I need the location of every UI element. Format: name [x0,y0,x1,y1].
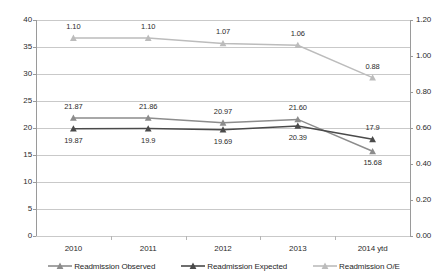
legend-label-2: Readmission O/E [339,262,400,271]
legend-item-0[interactable]: Readmission Observed [48,261,155,271]
legend-label-1: Readmission Expected [207,262,287,271]
chart-legend: Readmission ObservedReadmission Expected… [0,261,448,271]
data-label-1-2: 19.69 [198,137,248,146]
legend-label-0: Readmission Observed [74,262,155,271]
data-label-2-2: 1.07 [198,27,248,36]
data-label-0-2: 20.97 [198,107,248,116]
data-label-1-0: 19.87 [48,136,98,145]
data-label-2-3: 1.06 [273,29,323,38]
legend-marker-icon [313,261,337,271]
data-label-2-1: 1.10 [123,22,173,31]
data-label-0-0: 21.87 [48,102,98,111]
legend-item-2[interactable]: Readmission O/E [313,261,400,271]
data-label-0-4: 15.68 [348,158,398,167]
readmission-dual-axis-line-chart: 0510152025303540 0.000.200.400.600.801.0… [0,0,448,274]
data-label-2-0: 1.10 [48,22,98,31]
data-label-1-1: 19.9 [123,136,173,145]
data-label-2-4: 0.88 [348,62,398,71]
data-label-1-3: 20.39 [273,133,323,142]
data-label-0-1: 21.86 [123,102,173,111]
data-label-1-4: 17.9 [348,123,398,132]
legend-marker-icon [181,261,205,271]
legend-marker-icon [48,261,72,271]
legend-item-1[interactable]: Readmission Expected [181,261,287,271]
data-label-0-3: 21.60 [273,103,323,112]
